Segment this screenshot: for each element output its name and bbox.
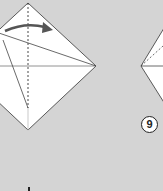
fold-illustration <box>0 0 163 191</box>
paper-sheet-main <box>0 3 96 130</box>
paper-sheet-next <box>141 10 163 120</box>
figure-mark <box>28 187 30 191</box>
origami-diagram: 9 <box>0 0 163 191</box>
step-number-badge: 9 <box>141 116 158 133</box>
